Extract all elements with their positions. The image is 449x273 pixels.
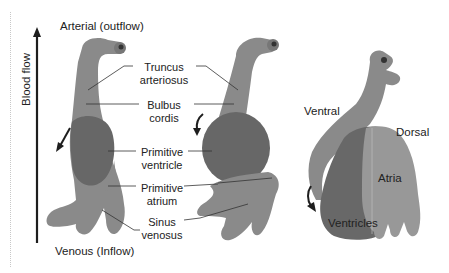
primitive-ventricle-label: Primitive ventricle (134, 146, 190, 172)
venous-inflow-label: Venous (Inflow) (55, 245, 134, 258)
ventral-label: Ventral (304, 105, 340, 118)
blood-flow-label: Blood flow (20, 53, 32, 106)
arterial-outflow-label: Arterial (outflow) (60, 20, 144, 33)
bulbus-cordis-label: Bulbus cordis (134, 99, 194, 125)
blood-flow-arrow-icon (33, 27, 41, 243)
stage3-heart (309, 50, 421, 239)
stage2-curve-arrow-icon (193, 114, 203, 136)
sinus-venosus-label: Sinus venosus (134, 216, 190, 242)
stage1-heart-tube (47, 38, 126, 234)
primitive-atrium-label: Primitive atrium (134, 182, 190, 208)
atria-label: Atria (378, 172, 402, 185)
dorsal-label: Dorsal (396, 126, 429, 139)
heart-development-diagram: Arterial (outflow) Venous (Inflow) Blood… (0, 0, 449, 273)
stage1-curve-arrow-icon (56, 128, 70, 152)
truncus-arteriosus-label: Truncus arteriosus (134, 61, 194, 87)
diagram-graphics (0, 0, 449, 273)
ventricles-label: Ventricles (328, 217, 378, 230)
